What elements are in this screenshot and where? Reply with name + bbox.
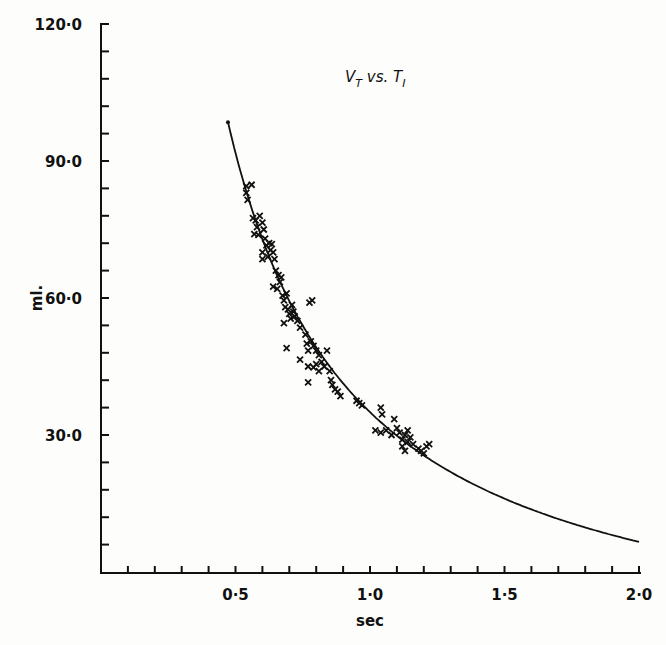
data-point-x-marker (426, 441, 432, 447)
data-point-x-marker (297, 325, 303, 331)
data-point-x-marker (316, 368, 322, 374)
data-point-x-marker (305, 379, 311, 385)
x-tick-label: 1·5 (491, 586, 518, 604)
data-point-x-marker (257, 213, 263, 219)
y-axis-title: ml. (28, 285, 46, 311)
data-point-x-marker (281, 320, 287, 326)
data-point-x-marker (297, 357, 303, 363)
x-axis-title: sec (356, 612, 384, 630)
data-point-x-marker (249, 182, 255, 188)
data-point-x-marker (272, 256, 278, 262)
axes: 30·060·090·0120·0 0·51·01·52·0 (35, 16, 653, 604)
x-tick-label: 0·5 (222, 586, 249, 604)
y-tick-label: 60·0 (45, 290, 82, 308)
data-point-x-marker (389, 432, 395, 438)
y-tick-label: 120·0 (35, 16, 82, 34)
data-points (243, 182, 432, 457)
data-point-x-marker (261, 227, 267, 233)
data-point-x-marker (391, 416, 397, 422)
data-point-x-marker (327, 368, 333, 374)
x-tick-labels: 0·51·01·52·0 (222, 586, 652, 604)
data-point-x-marker (324, 348, 330, 354)
data-point-x-marker (259, 220, 265, 226)
data-point-x-marker (284, 345, 290, 351)
y-ticks (101, 24, 109, 545)
data-point-x-marker (379, 411, 385, 417)
y-tick-labels: 30·060·090·0120·0 (35, 16, 82, 445)
x-ticks (128, 566, 639, 573)
data-point-x-marker (270, 249, 276, 255)
data-point-x-marker (378, 405, 384, 411)
curve-start-dot (226, 120, 230, 124)
data-point-x-marker (309, 297, 315, 303)
x-tick-label: 2·0 (626, 586, 653, 604)
chart: 30·060·090·0120·0 0·51·01·52·0 ml. sec V… (0, 0, 666, 645)
data-point-x-marker (305, 364, 311, 370)
fitted-curve (228, 122, 639, 542)
x-tick-label: 1·0 (357, 586, 384, 604)
y-tick-label: 90·0 (45, 153, 82, 171)
chart-title: VT vs. TI (345, 68, 405, 90)
y-tick-label: 30·0 (45, 427, 82, 445)
